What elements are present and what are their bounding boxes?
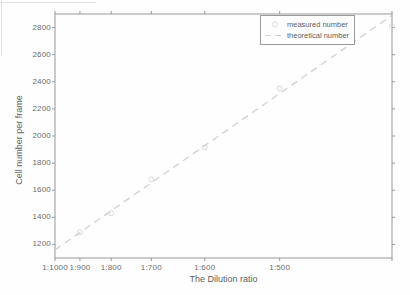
y-tick-label: 2600 — [15, 50, 51, 59]
theoretical-line — [55, 15, 392, 250]
x-axis-label: The Dilution ratio — [163, 274, 284, 284]
x-tick-label: 1:800 — [91, 263, 131, 272]
measured-point — [109, 211, 114, 216]
x-tick-label: 1:700 — [131, 263, 171, 272]
legend-item-measured: measured number — [263, 19, 352, 30]
y-tick-label: 1400 — [15, 212, 51, 221]
circle-marker-icon — [263, 20, 287, 29]
legend: measured number theoretical number — [260, 15, 355, 45]
measured-point — [149, 177, 154, 182]
measured-point — [277, 86, 282, 91]
x-tick-label: 1:600 — [185, 263, 225, 272]
figure: 1:10001:9001:8001:7001:6001:500120014001… — [0, 0, 410, 295]
y-tick-label: 1200 — [15, 239, 51, 248]
y-tick-label: 2800 — [15, 23, 51, 32]
x-tick-label: 1:500 — [260, 263, 300, 272]
dashed-line-icon — [263, 31, 287, 40]
legend-item-theoretical: theoretical number — [263, 30, 352, 41]
y-axis-label: Cell number per frame — [14, 80, 24, 200]
legend-label-theoretical: theoretical number — [287, 31, 349, 40]
legend-label-measured: measured number — [287, 20, 348, 29]
